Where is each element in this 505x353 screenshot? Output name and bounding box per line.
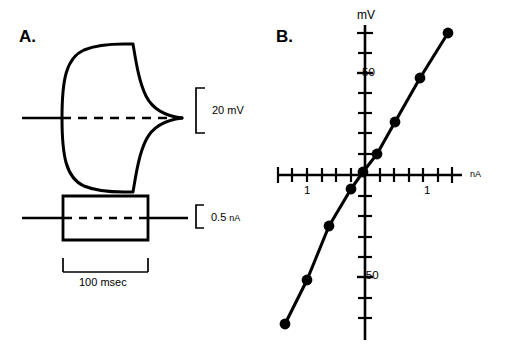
data-point xyxy=(372,149,383,160)
data-point xyxy=(358,167,369,178)
y-axis-title: mV xyxy=(357,8,375,22)
data-point xyxy=(280,319,291,330)
y-tick-label-minus50: -50 xyxy=(362,269,379,281)
data-point xyxy=(346,184,357,195)
panel-b-iv-plot xyxy=(0,0,505,353)
data-point xyxy=(302,275,313,286)
x-axis-title-text: nA xyxy=(470,169,481,179)
figure-container: A. B. 20 mV 0.5 nA 100 msec xyxy=(0,0,505,353)
data-point xyxy=(324,221,335,232)
data-point xyxy=(390,117,401,128)
x-axis-title: nA xyxy=(470,166,481,180)
y-tick-label-50: 50 xyxy=(362,66,375,78)
x-tick-label-1: 1 xyxy=(424,184,430,196)
data-point xyxy=(443,28,454,39)
x-tick-label-minus1: 1 xyxy=(304,184,310,196)
data-point xyxy=(415,73,426,84)
